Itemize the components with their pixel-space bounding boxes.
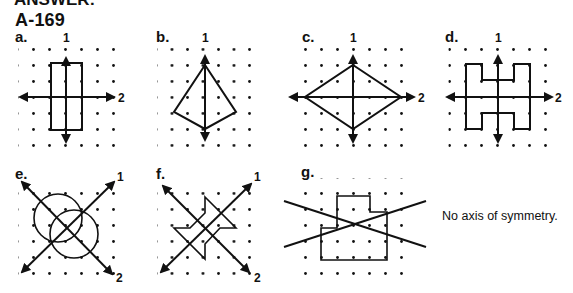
panel-e: e. 1 2 <box>15 165 124 285</box>
axis-label-1: 1 <box>202 31 209 45</box>
panel-f: f. 1 2 <box>156 165 261 285</box>
panel-label-d: d. <box>445 28 458 45</box>
panel-label-e: e. <box>15 165 28 182</box>
panel-label-f: f. <box>156 165 165 182</box>
axis-label-2: 2 <box>118 91 125 105</box>
panel-label-g: g. <box>301 163 314 180</box>
panel-c: c. 1 2 <box>290 28 425 148</box>
axis-label-1: 1 <box>63 31 70 45</box>
axis-label-1: 1 <box>254 170 261 184</box>
axis-label-1: 1 <box>117 170 124 184</box>
panel-d: d. 1 2 <box>445 28 562 148</box>
panel-g: g. <box>284 163 426 279</box>
panel-a: a. 1 2 <box>15 28 125 148</box>
panel-b: b. 1 <box>156 28 255 148</box>
axis-label-2: 2 <box>555 91 562 105</box>
axis-label-2: 2 <box>116 271 123 285</box>
panel-label-a: a. <box>15 28 28 45</box>
dot-grid <box>304 179 406 279</box>
no-symmetry-note: No axis of symmetry. <box>442 209 558 223</box>
axis-label-1: 1 <box>495 31 502 45</box>
panel-label-c: c. <box>302 28 315 45</box>
panel-label-b: b. <box>156 28 169 45</box>
axis-label-1: 1 <box>350 31 357 45</box>
symmetry-figures: a. 1 2 b. 1 c. 1 2 d. 1 2 e. <box>0 0 573 293</box>
axis-label-2: 2 <box>254 271 261 285</box>
axis-label-2: 2 <box>418 91 425 105</box>
